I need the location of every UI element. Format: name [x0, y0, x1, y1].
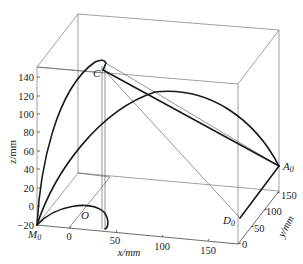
x-tick-100: 100 — [154, 241, 170, 252]
point-label-D0: D0 — [222, 214, 235, 228]
trajectory-base-arc — [37, 206, 108, 229]
trajectory-C-A0 — [103, 70, 279, 166]
z-tick-20: 20 — [24, 183, 35, 194]
trajectory-lower-arc — [37, 91, 279, 225]
point-label-C: C — [93, 67, 101, 79]
z-tick-40: 40 — [24, 164, 35, 175]
z-tick-80: 80 — [24, 127, 35, 138]
y-tick-0: 0 — [242, 239, 247, 250]
x-axis-ticks — [70, 226, 209, 241]
y-tick-100: 100 — [266, 206, 282, 217]
z-tick-labels: 140 120 100 80 60 40 20 0 −20 — [18, 72, 34, 231]
x-tick-50: 50 — [110, 235, 121, 246]
axes — [37, 191, 279, 244]
z-axis-label: z/mm — [7, 140, 18, 164]
point-label-A0: A0 — [282, 160, 294, 174]
y-tick-50: 50 — [254, 223, 265, 234]
3d-trajectory-chart: 140 120 100 80 60 40 20 0 −20 z/mm 0 50 … — [0, 0, 303, 264]
x-tick-0: 0 — [66, 231, 71, 242]
z-tick-120: 120 — [18, 91, 34, 102]
z-tick-60: 60 — [24, 146, 35, 157]
point-labels: M0 O C A0 D0 — [27, 67, 294, 242]
point-label-O: O — [81, 209, 89, 221]
y-axis-label: y/mm — [275, 213, 296, 239]
y-tick-150: 150 — [281, 190, 297, 201]
z-tick-100: 100 — [18, 109, 34, 120]
x-tick-150: 150 — [200, 245, 216, 256]
point-label-M0: M0 — [27, 228, 41, 242]
z-tick-140: 140 — [18, 72, 34, 83]
x-axis-label: x/mm — [117, 247, 141, 258]
z-tick-0: 0 — [29, 201, 34, 212]
z-axis-ticks — [37, 77, 40, 206]
